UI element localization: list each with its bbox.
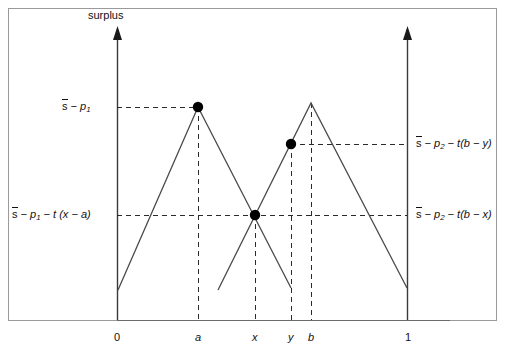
point-y-dot: [286, 139, 296, 149]
surplus-curve-firm-1: [118, 107, 291, 290]
y-label-s-minus-p2-minus-t-b-minus-x: s − p2 − t(b − x): [416, 209, 492, 220]
figure-frame: [9, 9, 497, 321]
diagram-svg: [0, 0, 505, 354]
surplus-curve-firm-2: [218, 103, 407, 290]
s-bar-glyph: s: [416, 209, 422, 220]
right-y-axis: [403, 26, 412, 320]
y-label-s-minus-p2-minus-t-b-minus-y: s − p2 − t(b − y): [416, 138, 492, 149]
figure-canvas: surplus s − p1 s − p1 − t (x − a) s − p2…: [0, 0, 505, 354]
y-axis-title: surplus: [88, 10, 123, 21]
x-tick-label-1: 1: [405, 332, 411, 343]
s-bar-glyph: s: [62, 101, 68, 112]
x-tick-label-y: y: [288, 332, 294, 343]
y-label-s-minus-p1-minus-t-x-minus-a: s − p1 − t (x − a): [12, 209, 91, 220]
peak-a-dot: [193, 102, 203, 112]
intersection-x-dot: [250, 210, 260, 220]
s-bar-glyph: s: [12, 209, 18, 220]
y-label-s-minus-p1: s − p1: [62, 101, 91, 112]
x-tick-label-0: 0: [114, 332, 120, 343]
left-y-axis: [113, 26, 122, 320]
x-tick-label-b: b: [308, 332, 314, 343]
x-tick-label-x: x: [252, 332, 258, 343]
s-bar-glyph: s: [416, 138, 422, 149]
x-tick-label-a: a: [195, 332, 201, 343]
